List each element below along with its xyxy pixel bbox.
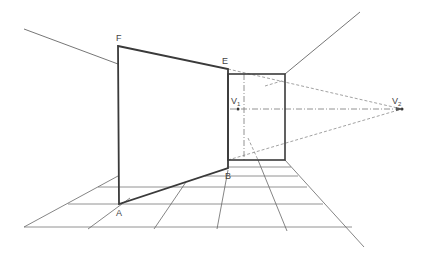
- label-A: A: [116, 208, 122, 218]
- vanishing-point-v1: [237, 108, 240, 111]
- label-V1: V1: [231, 96, 241, 107]
- construction-lines: [228, 69, 402, 160]
- label-E: E: [222, 56, 228, 66]
- perspective-diagram: F E A B V1 V2: [0, 0, 426, 264]
- room-edge-lines: [24, 12, 360, 74]
- label-F: F: [116, 33, 122, 43]
- label-V2: V2: [392, 96, 402, 107]
- floor-grid-horizontals: [24, 167, 352, 227]
- label-B: B: [225, 171, 231, 181]
- back-wall-rectangle: [228, 74, 285, 160]
- horizon-line: [230, 74, 402, 160]
- plane-FEBA: [118, 46, 228, 204]
- floor-grid-diagonals: [24, 160, 364, 247]
